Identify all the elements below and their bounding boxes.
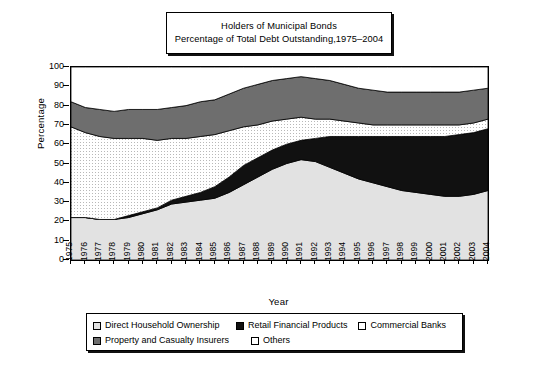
- stacked-area-plot: [71, 67, 488, 260]
- x-tick-label-2003: 2003: [468, 242, 477, 261]
- x-tick-label-1993: 1993: [324, 242, 333, 261]
- legend-label-3: Property and Casualty Insurers: [105, 336, 229, 345]
- y-tick-mark-70: [63, 124, 69, 125]
- x-tick-label-1983: 1983: [181, 242, 190, 261]
- legend-label-2: Commercial Banks: [370, 321, 446, 330]
- x-tick-label-2000: 2000: [425, 242, 434, 261]
- y-tick-mark-30: [63, 201, 69, 202]
- legend-swatch-icon-black: [236, 322, 244, 330]
- x-tick-label-1975: 1975: [66, 242, 75, 261]
- x-tick-label-1977: 1977: [94, 242, 103, 261]
- x-tick-label-1992: 1992: [310, 242, 319, 261]
- y-tick-mark-40: [63, 182, 69, 183]
- x-tick-label-1980: 1980: [138, 242, 147, 261]
- legend-label-1: Retail Financial Products: [248, 321, 348, 330]
- x-tick-label-2002: 2002: [454, 242, 463, 261]
- x-tick-label-1978: 1978: [109, 242, 118, 261]
- legend-swatch-icon-white: [358, 322, 366, 330]
- y-tick-label-100: 100: [49, 62, 64, 71]
- y-tick-mark-20: [63, 220, 69, 221]
- legend-row-1: Direct Household OwnershipRetail Financi…: [93, 318, 456, 333]
- x-tick-label-1988: 1988: [253, 242, 262, 261]
- x-tick-label-1982: 1982: [166, 242, 175, 261]
- legend-item-2[interactable]: Commercial Banks: [358, 321, 446, 330]
- x-tick-label-1997: 1997: [382, 242, 391, 261]
- x-tick-label-2004: 2004: [483, 242, 492, 261]
- legend-row-2: Property and Casualty InsurersOthers: [93, 333, 456, 348]
- chart-title-line2: Percentage of Total Debt Outstanding,197…: [175, 33, 384, 46]
- x-tick-label-1984: 1984: [195, 242, 204, 261]
- y-tick-mark-60: [63, 143, 69, 144]
- chart-figure: Holders of Municipal Bonds Percentage of…: [0, 0, 549, 370]
- x-tick-label-1987: 1987: [238, 242, 247, 261]
- y-tick-mark-90: [63, 85, 69, 86]
- chart-title-line1: Holders of Municipal Bonds: [221, 20, 337, 33]
- x-tick-label-1996: 1996: [368, 242, 377, 261]
- legend-swatch-icon-light-gray: [93, 322, 101, 330]
- x-tick-label-1985: 1985: [209, 242, 218, 261]
- legend-swatch-icon-white: [251, 337, 259, 345]
- x-tick-label-1989: 1989: [267, 242, 276, 261]
- legend-item-0[interactable]: Direct Household Ownership: [93, 321, 226, 330]
- y-tick-mark-50: [63, 163, 69, 164]
- plot-clip: [71, 67, 488, 260]
- x-tick-label-1979: 1979: [123, 242, 132, 261]
- legend-label-0: Direct Household Ownership: [105, 321, 220, 330]
- legend-item-3[interactable]: Property and Casualty Insurers: [93, 336, 241, 345]
- y-tick-mark-10: [63, 240, 69, 241]
- x-tick-label-2001: 2001: [439, 242, 448, 261]
- plot-area: [70, 66, 489, 261]
- x-tick-label-1976: 1976: [80, 242, 89, 261]
- x-tick-label-1991: 1991: [296, 242, 305, 261]
- x-tick-label-1999: 1999: [411, 242, 420, 261]
- x-tick-label-1981: 1981: [152, 242, 161, 261]
- legend-item-1[interactable]: Retail Financial Products: [236, 321, 348, 330]
- x-tick-label-1998: 1998: [396, 242, 405, 261]
- x-tick-label-1994: 1994: [339, 242, 348, 261]
- legend-item-4[interactable]: Others: [251, 336, 290, 345]
- y-tick-mark-100: [63, 66, 69, 67]
- chart-title-box: Holders of Municipal Bonds Percentage of…: [166, 12, 392, 54]
- x-tick-label-1990: 1990: [281, 242, 290, 261]
- x-axis-title: Year: [70, 296, 487, 307]
- y-tick-mark-80: [63, 105, 69, 106]
- legend-label-4: Others: [263, 336, 290, 345]
- legend-swatch-icon-dark-gray: [93, 337, 101, 345]
- y-axis-title: Percentage: [35, 79, 46, 169]
- x-tick-label-1995: 1995: [353, 242, 362, 261]
- chart-legend: Direct Household OwnershipRetail Financi…: [86, 313, 463, 351]
- x-tick-label-1986: 1986: [224, 242, 233, 261]
